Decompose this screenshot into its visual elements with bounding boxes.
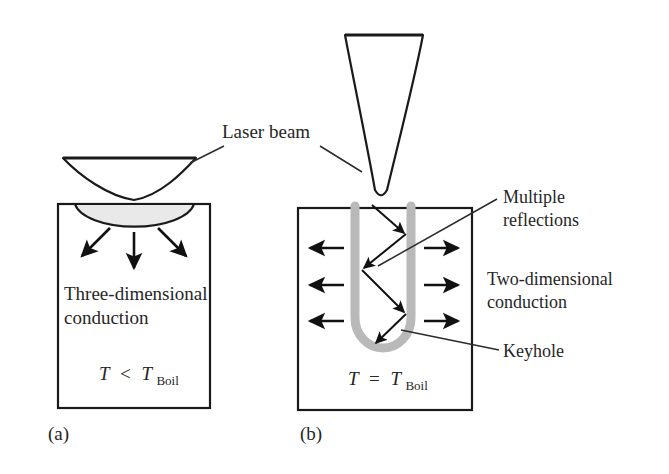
multiple-reflections-label-line2: reflections [503, 210, 579, 230]
reflection-ray-1 [372, 205, 404, 233]
temp-b-symbol: T [348, 368, 360, 389]
temp-b-operator: = [369, 368, 380, 389]
melt-pool [75, 204, 194, 227]
laser-beam-cone-a [63, 158, 196, 200]
temp-a-operator: < [120, 363, 131, 384]
workpiece-block-b [298, 208, 472, 410]
laser-beam-cone-b [345, 35, 423, 195]
temperature-label-a: T < T Boil [99, 363, 179, 388]
laser-beam-label: Laser beam [222, 121, 310, 142]
temp-a-subscript: Boil [156, 373, 179, 388]
conduction-label-b-line2: conduction [487, 292, 567, 312]
multiple-reflections-label-line1: Multiple [503, 187, 565, 207]
heat-arrow-a-left [82, 228, 110, 256]
temperature-label-b: T = T Boil [348, 368, 428, 393]
panel-id-a: (a) [48, 423, 69, 445]
keyhole-cavity [355, 206, 411, 348]
figure-root: Three-dimensional conduction T < T Boil … [0, 0, 669, 474]
laser-beam-leader-a [190, 146, 224, 163]
temp-a-symbol: T [99, 363, 111, 384]
temp-b-subscript: Boil [405, 378, 428, 393]
laser-beam-leader-b [320, 146, 362, 172]
keyhole-label: Keyhole [503, 341, 564, 361]
panel-id-b: (b) [300, 423, 322, 445]
conduction-label-a-line2: conduction [64, 307, 149, 328]
keyhole-leader [401, 330, 499, 350]
conduction-label-a-line1: Three-dimensional [64, 283, 208, 304]
temp-b-ref: T [390, 368, 402, 389]
reflection-ray-3 [362, 270, 404, 312]
heat-arrow-a-right [158, 228, 186, 256]
temp-a-ref: T [141, 363, 153, 384]
conduction-label-b-line1: Two-dimensional [487, 269, 613, 289]
